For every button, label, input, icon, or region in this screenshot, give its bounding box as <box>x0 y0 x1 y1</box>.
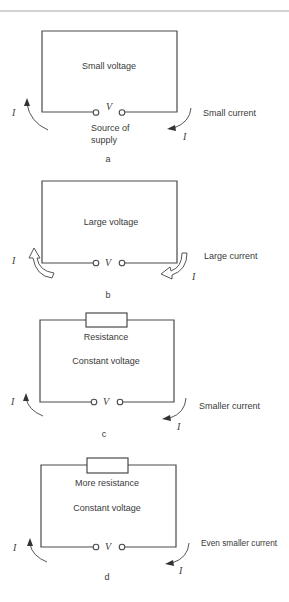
voltage-symbol-a: V <box>106 101 114 112</box>
center-label-a: Small voltage <box>82 61 136 71</box>
terminal-left-b <box>93 260 99 266</box>
panel-c: V Resistance Constant voltage I I Smalle… <box>10 313 261 439</box>
caption-c: c <box>102 429 107 439</box>
center-label-d: Constant voltage <box>73 503 141 513</box>
arrow-head-icon <box>24 98 30 106</box>
panel-a: V Small voltage Source of supply I I Sma… <box>11 31 257 164</box>
voltage-symbol-d: V <box>105 541 113 552</box>
voltage-symbol-c: V <box>103 396 111 407</box>
terminal-right-b <box>119 260 125 266</box>
current-symbol-right-c: I <box>176 421 181 432</box>
panel-b: V Large voltage I I Large current b <box>11 181 258 300</box>
current-arrow-right-d <box>172 543 189 563</box>
caption-d: d <box>104 572 109 582</box>
side-label-d: Even smaller current <box>201 538 278 548</box>
current-symbol-left-b: I <box>11 255 16 266</box>
current-symbol-right-d: I <box>178 565 183 576</box>
center-label-b: Large voltage <box>84 217 139 227</box>
terminal-right-c <box>117 399 123 405</box>
source-label-line2: supply <box>91 135 118 145</box>
voltage-symbol-b: V <box>105 257 113 268</box>
current-symbol-left-c: I <box>10 396 15 407</box>
current-arrow-right-c <box>170 398 186 418</box>
terminal-left-a <box>93 110 99 116</box>
resistor-label-d: More resistance <box>75 478 139 488</box>
arrow-head-icon <box>162 415 171 421</box>
thick-current-arrow-right-b <box>161 253 187 279</box>
arrow-head-icon <box>23 393 29 401</box>
terminal-right-a <box>119 110 125 116</box>
circuit-diagram: V Small voltage Source of supply I I Sma… <box>0 0 289 602</box>
center-label-c: Constant voltage <box>72 356 140 366</box>
terminal-right-d <box>119 544 125 550</box>
resistor-label-c: Resistance <box>84 332 129 342</box>
source-label-line1: Source of <box>91 123 130 133</box>
panel-d: V More resistance Constant voltage I I E… <box>12 458 278 582</box>
side-label-a: Small current <box>203 108 257 118</box>
arrow-head-icon <box>167 125 176 131</box>
current-symbol-right-b: I <box>191 271 196 282</box>
resistor-d <box>87 458 128 473</box>
current-arrow-left-a <box>27 104 48 130</box>
arrow-head-icon <box>27 538 33 546</box>
terminal-left-c <box>91 399 97 405</box>
circuit-loop-a <box>42 31 177 112</box>
terminal-left-d <box>93 544 99 550</box>
current-symbol-left-a: I <box>11 107 16 118</box>
arrow-head-icon <box>165 560 174 566</box>
caption-b: b <box>105 290 110 300</box>
side-label-c: Smaller current <box>199 401 261 411</box>
current-symbol-left-d: I <box>12 542 17 553</box>
resistor-c <box>86 313 127 327</box>
caption-a: a <box>105 154 110 164</box>
side-label-b: Large current <box>204 251 258 261</box>
current-symbol-right-a: I <box>182 131 187 142</box>
